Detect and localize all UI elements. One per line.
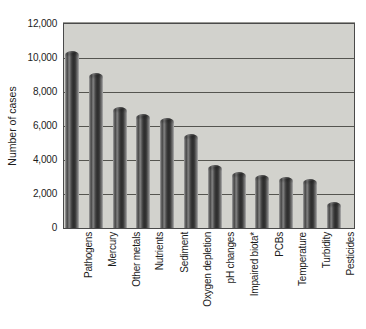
x-category-label-text: PCBs xyxy=(273,232,284,257)
gridline xyxy=(64,126,354,127)
bar xyxy=(89,73,103,228)
x-category-label-text: Pesticides xyxy=(345,232,356,276)
bar xyxy=(327,202,341,228)
x-category-label-text: Oxygen depletion xyxy=(202,232,213,307)
bar xyxy=(303,179,317,228)
bar xyxy=(232,172,246,228)
y-tick-label: 6,000 xyxy=(0,120,57,132)
x-category-label-text: Other metals xyxy=(131,232,142,287)
x-category-label-text: Pathogens xyxy=(83,232,94,278)
bar xyxy=(160,118,174,228)
bar xyxy=(208,165,222,228)
y-tick-label: 4,000 xyxy=(0,154,57,166)
bar xyxy=(255,175,269,228)
x-category-label-text: Nutrients xyxy=(154,232,165,270)
bar xyxy=(279,177,293,228)
x-category-label-text: Impaired biota* xyxy=(250,232,261,296)
y-tick-label: 12,000 xyxy=(0,18,57,30)
x-category-label-text: pH changes xyxy=(226,232,237,283)
plot-area xyxy=(63,23,355,229)
x-category-label-text: Mercury xyxy=(107,232,118,267)
x-category-label-text: Temperature xyxy=(297,232,308,286)
gridline xyxy=(64,58,354,59)
y-tick-label: 2,000 xyxy=(0,188,57,200)
bar xyxy=(136,114,150,228)
y-tick-label: 0 xyxy=(0,222,57,234)
bar-chart-figure: Number of cases 02,0004,0006,0008,00010,… xyxy=(0,0,366,329)
y-tick-label: 10,000 xyxy=(0,52,57,64)
y-tick-label: 8,000 xyxy=(0,86,57,98)
bar xyxy=(184,134,198,228)
bar xyxy=(65,51,79,228)
x-category-label-text: Sediment xyxy=(178,232,189,273)
bar xyxy=(113,107,127,228)
gridline xyxy=(64,160,354,161)
x-category-label-text: Turbidity xyxy=(321,232,332,268)
gridline xyxy=(64,92,354,93)
